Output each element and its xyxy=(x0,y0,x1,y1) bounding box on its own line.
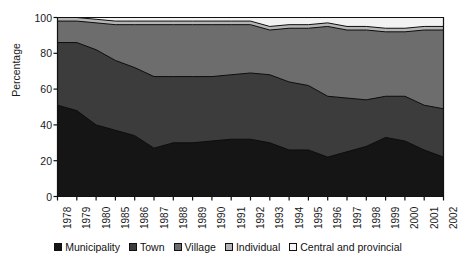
legend-label: Central and provincial xyxy=(300,241,402,253)
x-tick-label: 1996 xyxy=(332,206,343,228)
x-tick-label: 1990 xyxy=(216,206,227,228)
legend-swatch-icon xyxy=(174,243,182,251)
x-tick-label: 1979 xyxy=(81,206,92,228)
x-tick-label: 1987 xyxy=(159,206,170,228)
x-tick-label: 2000 xyxy=(409,206,420,228)
x-tick-label: 1995 xyxy=(313,206,324,228)
legend-swatch-icon xyxy=(54,243,62,251)
x-tick-label: 2002 xyxy=(448,206,459,228)
legend-item: Municipality xyxy=(54,241,120,253)
x-tick-label: 1991 xyxy=(236,206,247,228)
legend-item: Town xyxy=(129,241,165,253)
x-tick-label: 1998 xyxy=(371,206,382,228)
x-tick-label: 1985 xyxy=(120,206,131,228)
legend-swatch-icon xyxy=(289,243,297,251)
x-tick-label: 1992 xyxy=(255,206,266,228)
x-tick-label: 1986 xyxy=(139,206,150,228)
legend-label: Town xyxy=(140,241,165,253)
legend-label: Individual xyxy=(236,241,280,253)
legend-label: Municipality xyxy=(65,241,120,253)
x-tick-label: 1989 xyxy=(197,206,208,228)
x-tick-label: 1999 xyxy=(390,206,401,228)
legend-item: Individual xyxy=(225,241,280,253)
legend-item: Central and provincial xyxy=(289,241,402,253)
x-tick-label: 1997 xyxy=(352,206,363,228)
legend-item: Village xyxy=(174,241,216,253)
legend-swatch-icon xyxy=(225,243,233,251)
x-tick-label: 1994 xyxy=(294,206,305,228)
chart-legend: MunicipalityTownVillageIndividualCentral… xyxy=(0,239,456,255)
x-tick-label: 1978 xyxy=(62,206,73,228)
x-tick-label: 1993 xyxy=(274,206,285,228)
legend-swatch-icon xyxy=(129,243,137,251)
x-tick-label: 1980 xyxy=(101,206,112,228)
legend-label: Village xyxy=(185,241,216,253)
x-tick-label: 1988 xyxy=(178,206,189,228)
x-tick-label: 2001 xyxy=(429,206,440,228)
